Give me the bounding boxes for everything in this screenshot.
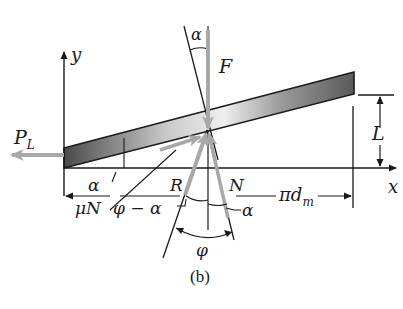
thread-force-diagram: y x PL F α L α R N μN φ − α α πdm φ (b): [0, 0, 403, 309]
friction-label: μN: [75, 200, 101, 217]
phi-label: φ: [196, 242, 208, 259]
normal-label: N: [229, 177, 244, 194]
applied-force-label: F: [219, 57, 232, 76]
resultant-force-arrow: [185, 134, 206, 195]
phi-minus-alpha-label: φ − α: [113, 200, 161, 217]
alpha-bottom-leader: [226, 208, 241, 210]
circumference-label: πdm: [279, 186, 314, 204]
phi-minus-alpha-arc: [186, 196, 208, 201]
y-axis-label: y: [71, 46, 81, 64]
lead-label: L: [372, 124, 385, 143]
alpha-bottom-label: α: [242, 202, 253, 219]
alpha-left-leader: [112, 172, 116, 182]
x-axis-label: x: [388, 178, 398, 196]
alpha-left-label: α: [88, 177, 99, 194]
resultant-label: R: [170, 177, 183, 194]
alpha-top-label: α: [191, 27, 202, 43]
load-force-label: PL: [14, 128, 35, 147]
alpha-top-arc: [190, 48, 208, 50]
phi-angle-arc: [176, 228, 232, 238]
diagram-canvas: [0, 0, 403, 309]
figure-caption: (b): [190, 268, 210, 285]
